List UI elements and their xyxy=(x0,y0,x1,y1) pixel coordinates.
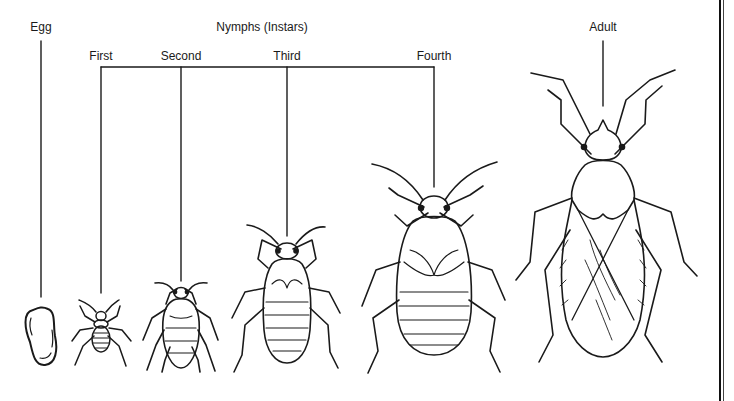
egg-illustration xyxy=(26,307,57,365)
first-instar-illustration xyxy=(72,300,131,366)
fourth-instar-illustration xyxy=(362,162,505,373)
connector-lines xyxy=(41,41,603,297)
third-instar-illustration xyxy=(232,225,340,372)
frame-border-outer xyxy=(719,0,721,401)
life-cycle-diagram: Egg Nymphs (Instars) First Second Third … xyxy=(0,0,734,401)
illustration-canvas xyxy=(0,0,734,401)
frame-border-inner xyxy=(723,0,724,401)
adult-illustration xyxy=(516,70,697,362)
second-instar-illustration xyxy=(143,283,218,372)
